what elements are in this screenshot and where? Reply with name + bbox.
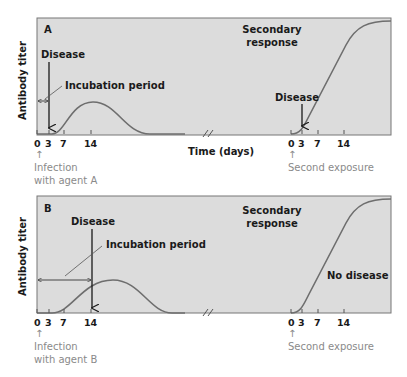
diagram-canvas: A Antibody titer 0 3 7 14 0 [0,0,407,377]
tick-7: 7 [60,317,67,328]
tick-0: 0 [288,138,295,149]
panel-b-incubation-label: Incubation period [106,239,206,250]
tick-3: 3 [298,138,305,149]
panel-a-secondary-response-line2: response [246,37,298,48]
panel-a-y-axis-label: Antibody titer [17,41,28,120]
panel-b-letter: B [44,203,52,214]
panel-b-second-exposure-label: Second exposure [288,341,374,352]
panel-b-up-arrow-icon: ↑ [35,328,43,339]
panel-a-letter: A [44,24,52,35]
panel-a-second-exposure-arrow-icon: ↑ [288,149,296,160]
panel-b-second-exposure-arrow-icon: ↑ [288,328,296,339]
panel-a-infection-line2: with agent A [34,175,97,186]
tick-14: 14 [337,317,351,328]
panel-a-second-exposure-label: Second exposure [288,162,374,173]
panel-b-no-disease-label: No disease [327,270,389,281]
x-axis-label: Time (days) [188,146,254,157]
panel-b-y-axis-label: Antibody titer [17,217,28,296]
panel-a-infection-line1: Infection [34,162,78,173]
tick-3: 3 [45,317,52,328]
panel-b-infection-line1: Infection [34,341,78,352]
tick-0: 0 [34,317,41,328]
panel-b: B Antibody titer 0 3 7 14 0 3 7 14 [17,196,391,365]
panel-a: A Antibody titer 0 3 7 14 0 [17,18,391,186]
tick-0: 0 [288,317,295,328]
tick-14: 14 [84,317,98,328]
panel-a-secondary-response-line1: Secondary [242,24,302,35]
panel-b-secondary-response-line2: response [246,218,298,229]
tick-7: 7 [60,138,67,149]
panel-b-infection-line2: with agent B [34,354,97,365]
tick-14: 14 [84,138,98,149]
tick-7: 7 [314,317,321,328]
tick-14: 14 [337,138,351,149]
panel-b-disease-label: Disease [71,216,115,227]
panel-a-background [37,18,391,135]
panel-b-secondary-response-line1: Secondary [242,205,302,216]
panel-a-secondary-disease-label: Disease [275,92,319,103]
tick-0: 0 [34,138,41,149]
panel-b-background [37,196,391,313]
panel-a-up-arrow-icon: ↑ [35,149,43,160]
tick-3: 3 [45,138,52,149]
tick-3: 3 [298,317,305,328]
panel-a-disease-label: Disease [41,49,85,60]
tick-7: 7 [314,138,321,149]
panel-a-incubation-label: Incubation period [65,80,165,91]
